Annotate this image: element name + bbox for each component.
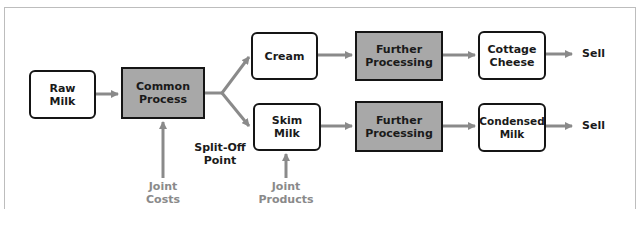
joint-costs-label: Joint Costs <box>140 180 186 206</box>
node-cream: Cream <box>251 32 318 80</box>
node-label: Cottage Cheese <box>488 43 537 69</box>
node-further-processing-skim: Further Processing <box>355 101 443 152</box>
node-common-process: Common Process <box>121 67 205 119</box>
joint-products-label: Joint Products <box>256 180 316 206</box>
node-label: Common Process <box>136 80 190 106</box>
split-off-point-label: Split-Off Point <box>193 141 247 167</box>
sell-label-top: Sell <box>582 47 605 60</box>
node-cottage-cheese: Cottage Cheese <box>478 31 546 80</box>
node-label: Cream <box>265 50 305 63</box>
node-further-processing-cream: Further Processing <box>355 31 443 81</box>
node-label: Skim Milk <box>272 114 302 140</box>
node-label: Raw Milk <box>49 82 75 108</box>
node-label: Condensed Milk <box>479 115 544 141</box>
node-label: Further Processing <box>365 43 433 69</box>
node-label: Further Processing <box>365 114 433 140</box>
sell-label-bottom: Sell <box>582 119 605 132</box>
node-raw-milk: Raw Milk <box>29 70 96 119</box>
node-skim-milk: Skim Milk <box>253 103 321 151</box>
node-condensed-milk: Condensed Milk <box>478 103 546 152</box>
